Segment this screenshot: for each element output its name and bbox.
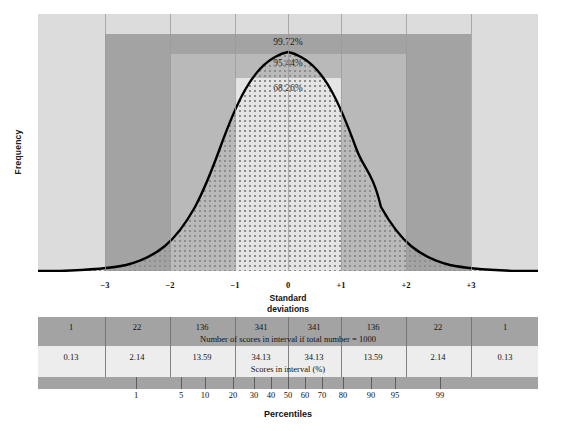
- percentile-tick: [205, 377, 206, 389]
- percentile-tick: [181, 377, 182, 389]
- percent-cell: 13.59: [182, 352, 222, 362]
- percentile-tick: [288, 377, 289, 389]
- table-caption-percent: Scores in interval (%): [38, 364, 538, 374]
- percentile-label: 10: [190, 390, 220, 400]
- percent-cell: 2.14: [117, 352, 157, 362]
- percentiles-axis-title: Percentiles: [228, 409, 348, 419]
- percentile-tick: [440, 377, 441, 389]
- percentile-tick: [322, 377, 323, 389]
- count-cell: 136: [353, 322, 393, 332]
- percentile-tick: [371, 377, 372, 389]
- gridline-sd-plus2: [406, 14, 407, 271]
- x-axis-title-line2: deviations: [228, 304, 348, 315]
- sd-tick-label-minus3: −3: [85, 280, 125, 290]
- count-cell: 22: [418, 322, 458, 332]
- count-cell: 1: [485, 322, 525, 332]
- sd-tick-label-plus3: +3: [451, 280, 491, 290]
- gridline-sd-minus2: [170, 14, 171, 271]
- count-cell: 341: [294, 322, 334, 332]
- sd-tick-label-plus1: +1: [321, 280, 361, 290]
- percent-cell: 34.13: [241, 352, 281, 362]
- percentile-tick: [136, 377, 137, 389]
- percentile-tick: [305, 377, 306, 389]
- percentile-label: 95: [380, 390, 410, 400]
- percent-cell: 13.59: [353, 352, 393, 362]
- percentile-label: 80: [328, 390, 358, 400]
- sd-tick-label-0: 0: [268, 280, 308, 290]
- percentile-tick: [343, 377, 344, 389]
- x-axis-title: Standard deviations: [228, 293, 348, 315]
- percent-cell: 2.14: [418, 352, 458, 362]
- percentile-tick: [254, 377, 255, 389]
- sd-tick-label-plus2: +2: [386, 280, 426, 290]
- percentile-tick: [395, 377, 396, 389]
- x-axis-title-line1: Standard: [228, 293, 348, 304]
- gridline-sd-minus3: [105, 14, 106, 271]
- count-cell: 22: [117, 322, 157, 332]
- gridline-sd-plus1: [341, 14, 342, 271]
- percent-cell: 0.13: [485, 352, 525, 362]
- y-axis-label: Frequency: [13, 112, 23, 192]
- count-cell: 341: [241, 322, 281, 332]
- percent-cell: 34.13: [294, 352, 334, 362]
- gridline-sd-0: [288, 14, 289, 271]
- percentile-label: 1: [121, 390, 151, 400]
- percentile-tick: [271, 377, 272, 389]
- normal-distribution-figure: Frequency 99.72% 95.44% 68.26% −3 −2 −1 …: [0, 0, 576, 431]
- count-cell: 1: [51, 322, 91, 332]
- percentile-tick: [233, 377, 234, 389]
- gridline-sd-plus3: [471, 14, 472, 271]
- percentile-label: 99: [425, 390, 455, 400]
- percent-cell: 0.13: [51, 352, 91, 362]
- count-cell: 136: [182, 322, 222, 332]
- gridline-sd-minus1: [235, 14, 236, 271]
- table-caption-counts: Number of scores in interval if total nu…: [38, 334, 538, 344]
- sd-tick-label-minus2: −2: [150, 280, 190, 290]
- sd-tick-label-minus1: −1: [215, 280, 255, 290]
